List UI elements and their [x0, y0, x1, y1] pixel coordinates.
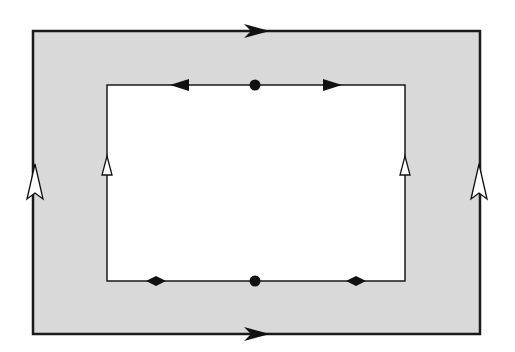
inner-top-dot-icon	[250, 80, 261, 91]
inner-bottom-dot-icon	[250, 276, 261, 287]
inner-rectangle	[107, 85, 405, 281]
ring-diagram	[0, 0, 515, 352]
